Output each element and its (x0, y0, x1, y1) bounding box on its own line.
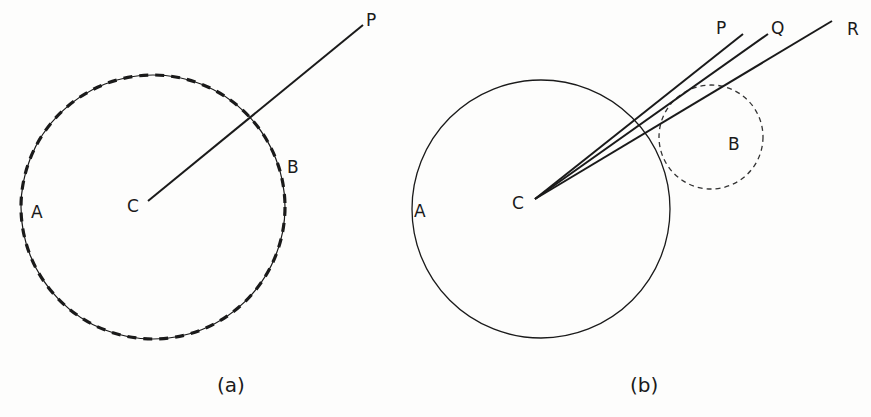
panel-b-circle (412, 80, 670, 338)
panel-a-label-a: A (31, 202, 43, 222)
panel-b: P Q R B A C (b) (412, 18, 859, 397)
panel-a-label-c: C (127, 196, 139, 216)
panel-b-ray-cq (535, 34, 768, 199)
panel-a-caption: (a) (217, 373, 245, 397)
panel-b-ray-cr (535, 21, 832, 199)
panel-b-caption: (b) (630, 373, 658, 397)
panel-a-ray-cp (148, 25, 363, 201)
panel-a-label-b: B (287, 157, 299, 177)
panel-a: P B A C (a) (21, 10, 376, 397)
panel-b-label-c: C (512, 193, 524, 213)
diagram-svg: P B A C (a) P Q R B A C (b) (0, 0, 871, 417)
panel-b-label-q: Q (771, 18, 784, 38)
figure-canvas: P B A C (a) P Q R B A C (b) (0, 0, 871, 417)
panel-b-ray-cp (535, 34, 743, 199)
panel-b-label-r: R (847, 19, 859, 39)
panel-b-label-a: A (414, 201, 426, 221)
panel-a-label-p: P (366, 10, 376, 30)
panel-b-label-p: P (716, 18, 726, 38)
panel-b-label-b: B (728, 134, 740, 154)
panel-a-circle-dashed (21, 75, 285, 339)
